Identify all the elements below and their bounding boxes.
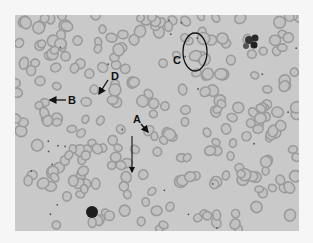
label-d: D xyxy=(111,71,119,82)
label-b: B xyxy=(68,95,76,106)
red-blood-cells xyxy=(15,15,299,231)
label-a: A xyxy=(133,114,141,125)
micrograph xyxy=(15,15,299,231)
label-c: C xyxy=(173,55,181,66)
